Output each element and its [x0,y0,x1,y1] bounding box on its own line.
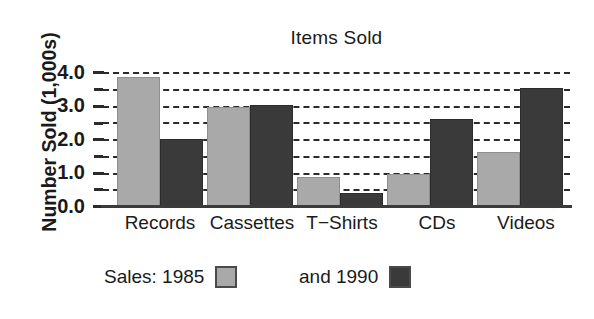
y-axis-tick-label: 0.0 [33,196,85,216]
x-axis-line [101,205,572,208]
bar-videos-1985[interactable] [477,152,520,206]
bar-t-shirts-1985[interactable] [297,177,340,206]
legend-label-1985: Sales: 1985 [104,266,204,288]
bar-records-1985[interactable] [117,77,160,206]
bar-chart-figure: Items Sold Number Sold (1,000s) 4.0 3.0 … [0,0,594,319]
plot-area [103,72,570,206]
light-gray-swatch-icon [215,266,237,288]
bar-t-shirts-1990[interactable] [340,193,383,206]
gridline [103,72,570,74]
y-axis-tick-label: 1.0 [33,162,85,182]
y-axis-tick-minor [94,88,103,91]
chart-title: Items Sold [103,27,570,49]
gridline [103,89,570,91]
x-axis-tick-label-cds: CDs [387,212,487,234]
chart-legend: Sales: 1985 and 1990 [0,262,594,298]
x-axis-tick-label-t-shirts: T−Shirts [292,212,392,234]
gridline [103,106,570,108]
y-axis-tick-minor [94,188,103,191]
x-axis-tick-label-cassettes: Cassettes [197,212,307,234]
legend-entry-1990[interactable]: and 1990 [299,262,411,292]
legend-entry-1985[interactable]: Sales: 1985 [104,262,237,292]
bar-cassettes-1990[interactable] [250,105,293,206]
y-axis-tick-label: 3.0 [33,95,85,115]
gridline [103,122,570,124]
bar-records-1990[interactable] [160,139,203,206]
y-axis-tick-minor [94,155,103,158]
x-axis-tick-label-videos: Videos [476,212,576,234]
legend-label-1990: and 1990 [299,266,378,288]
bar-cassettes-1985[interactable] [207,107,250,206]
x-axis-tick-label-records: Records [110,212,210,234]
y-axis-tick-minor [94,122,103,125]
y-axis-tick-label: 4.0 [33,62,85,82]
y-axis-tick-label: 2.0 [33,129,85,149]
dark-gray-swatch-icon [389,266,411,288]
bar-cds-1990[interactable] [430,119,473,206]
bar-cds-1985[interactable] [387,174,430,206]
bar-videos-1990[interactable] [520,88,563,206]
